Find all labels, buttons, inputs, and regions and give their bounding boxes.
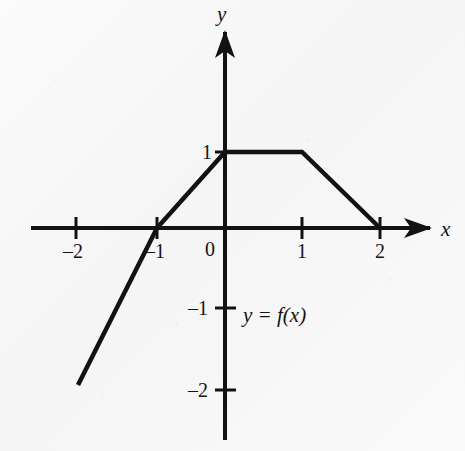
x-tick-label-neg2: –2 bbox=[63, 241, 83, 261]
function-annotation: y = f(x) bbox=[243, 305, 306, 326]
figure-canvas: y x 0 –2 –1 1 2 1 –1 –2 y = f(x) bbox=[0, 0, 465, 451]
x-tick-label-pos1: 1 bbox=[297, 241, 307, 261]
y-tick-label-pos1: 1 bbox=[202, 142, 212, 162]
x-tick-label-neg1: –1 bbox=[145, 241, 165, 261]
x-tick-label-pos2: 2 bbox=[375, 241, 385, 261]
y-tick-label-neg2: –2 bbox=[188, 380, 208, 400]
origin-label: 0 bbox=[205, 239, 215, 259]
x-axis-label: x bbox=[441, 219, 450, 240]
function-curve bbox=[78, 152, 380, 385]
graph-plot bbox=[0, 0, 465, 451]
y-axis-label: y bbox=[217, 4, 226, 25]
y-tick-label-neg1: –1 bbox=[188, 298, 208, 318]
